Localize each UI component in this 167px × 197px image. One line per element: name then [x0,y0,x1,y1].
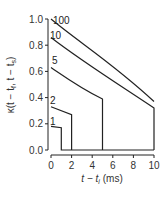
y-axis-title: κ(t − tf, t − ts) [5,57,17,114]
y-axis [45,19,48,150]
series-lines [51,19,154,150]
x-tick-0: 0 [48,160,54,171]
x-tick-10: 10 [148,160,160,171]
y-tick-0.8: 0.8 [29,40,43,51]
series-label-100: 100 [53,15,70,26]
x-tick-6: 6 [110,160,116,171]
series-label-2: 2 [50,95,56,106]
y-tick-0.2: 0.2 [29,118,43,129]
y-tick-0.4: 0.4 [29,92,43,103]
x-tick-4: 4 [89,160,95,171]
y-tick-labels: 1.0 0.8 0.6 0.4 0.2 0.0 [29,14,43,156]
y-tick-1.0: 1.0 [29,14,43,25]
x-tick-2: 2 [69,160,75,171]
series-label-5: 5 [52,55,58,66]
series-100-line [51,19,154,102]
chart: 1.0 0.8 0.6 0.4 0.2 0.0 0 2 4 6 8 10 t −… [0,0,167,197]
y-tick-0.0: 0.0 [29,145,43,156]
x-axis-title: t − ti(ms) [81,173,123,185]
series-label-10: 10 [50,30,62,41]
x-tick-8: 8 [131,160,137,171]
y-tick-0.6: 0.6 [29,66,43,77]
x-tick-labels: 0 2 4 6 8 10 [48,160,160,171]
series-5-line [51,68,103,151]
series-label-1: 1 [50,116,56,127]
x-axis [51,155,154,158]
